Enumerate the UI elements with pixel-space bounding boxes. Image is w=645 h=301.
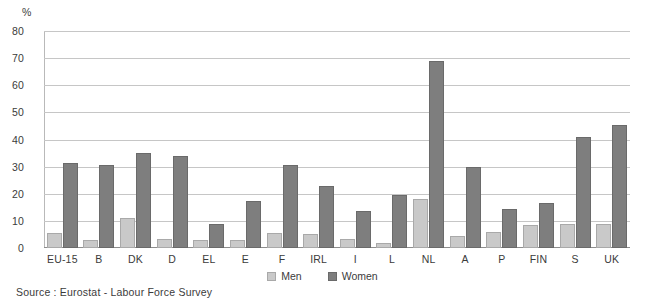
- y-tick-label-50: 50: [0, 106, 24, 118]
- y-tick-label-10: 10: [0, 215, 24, 227]
- bar-group-i: [340, 31, 371, 248]
- bar-women-dk[interactable]: [136, 153, 151, 248]
- bar-women-eu-15[interactable]: [63, 163, 78, 248]
- bar-men-el[interactable]: [193, 240, 208, 248]
- bar-women-p[interactable]: [502, 209, 517, 248]
- bar-women-s[interactable]: [576, 137, 591, 248]
- bar-men-dk[interactable]: [120, 218, 135, 248]
- bar-men-uk[interactable]: [596, 224, 611, 248]
- bar-group-p: [486, 31, 517, 248]
- bar-group-irl: [303, 31, 334, 248]
- legend-label: Women: [342, 270, 378, 282]
- bar-group-fin: [523, 31, 554, 248]
- women-swatch-icon: [328, 272, 337, 281]
- bar-women-d[interactable]: [173, 156, 188, 248]
- bar-men-i[interactable]: [340, 239, 355, 248]
- x-tick-label-uk: UK: [584, 253, 640, 265]
- legend-item-men[interactable]: Men: [267, 270, 301, 282]
- y-tick-label-60: 60: [0, 79, 24, 91]
- men-swatch-icon: [267, 272, 276, 281]
- bar-men-irl[interactable]: [303, 234, 318, 248]
- bar-women-fin[interactable]: [539, 203, 554, 248]
- bar-men-b[interactable]: [83, 240, 98, 248]
- bar-women-irl[interactable]: [319, 186, 334, 248]
- bar-men-l[interactable]: [376, 243, 391, 248]
- y-tick-label-30: 30: [0, 161, 24, 173]
- bar-women-b[interactable]: [99, 165, 114, 248]
- bar-men-nl[interactable]: [413, 199, 428, 248]
- y-tick-label-40: 40: [0, 134, 24, 146]
- bar-men-fin[interactable]: [523, 225, 538, 248]
- bar-group-uk: [596, 31, 627, 248]
- bar-women-uk[interactable]: [612, 125, 627, 248]
- y-tick-label-0: 0: [0, 242, 24, 254]
- bar-women-e[interactable]: [246, 201, 261, 248]
- bar-group-el: [193, 31, 224, 248]
- bar-men-f[interactable]: [267, 233, 282, 248]
- y-axis-unit-label: %: [22, 6, 31, 18]
- plot-area: [44, 31, 630, 248]
- bar-men-s[interactable]: [560, 224, 575, 248]
- bar-group-a: [450, 31, 481, 248]
- bar-men-a[interactable]: [450, 236, 465, 248]
- y-tick-label-70: 70: [0, 52, 24, 64]
- y-tick-label-20: 20: [0, 188, 24, 200]
- bar-group-f: [267, 31, 298, 248]
- bar-men-p[interactable]: [486, 232, 501, 248]
- bar-group-dk: [120, 31, 151, 248]
- bar-men-d[interactable]: [157, 239, 172, 248]
- bar-women-a[interactable]: [466, 167, 481, 248]
- chart-legend: MenWomen: [0, 270, 645, 282]
- bar-women-f[interactable]: [283, 165, 298, 248]
- bar-group-b: [83, 31, 114, 248]
- bar-men-eu-15[interactable]: [47, 233, 62, 248]
- bar-women-i[interactable]: [356, 211, 371, 248]
- bar-group-nl: [413, 31, 444, 248]
- bar-group-l: [376, 31, 407, 248]
- bar-women-el[interactable]: [209, 224, 224, 248]
- chart-container: % 01020304050607080EU-15BDKDELEFIRLILNLA…: [0, 0, 645, 301]
- bar-group-e: [230, 31, 261, 248]
- bar-group-d: [157, 31, 188, 248]
- y-tick-label-80: 80: [0, 25, 24, 37]
- bar-women-nl[interactable]: [429, 61, 444, 248]
- legend-item-women[interactable]: Women: [328, 270, 378, 282]
- bar-group-s: [560, 31, 591, 248]
- bar-group-eu-15: [47, 31, 78, 248]
- bar-women-l[interactable]: [392, 195, 407, 248]
- source-caption: Source : Eurostat - Labour Force Survey: [16, 286, 212, 298]
- bar-men-e[interactable]: [230, 240, 245, 248]
- legend-label: Men: [281, 270, 301, 282]
